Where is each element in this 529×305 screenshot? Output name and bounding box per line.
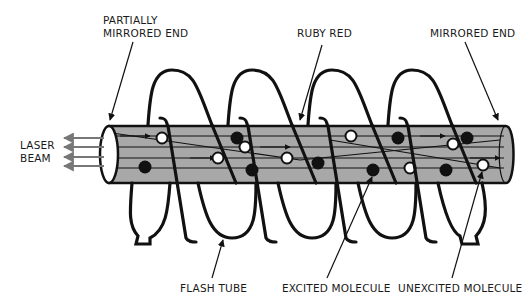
excited-molecule bbox=[367, 164, 380, 177]
unexcited-molecule bbox=[282, 153, 293, 164]
label-laser-beam: LASER BEAM bbox=[20, 139, 55, 165]
excited-molecule bbox=[440, 164, 453, 177]
unexcited-molecule bbox=[213, 153, 224, 164]
label-flash-tube: FLASH TUBE bbox=[180, 282, 247, 295]
label-partially-mirrored-end: PARTIALLY MIRRORED END bbox=[103, 14, 188, 40]
laser-beam-arrows bbox=[64, 138, 104, 166]
label-excited-molecule: EXCITED MOLECULE bbox=[282, 282, 390, 295]
label-line: MIRRORED END bbox=[103, 27, 188, 40]
excited-molecule bbox=[461, 132, 474, 145]
ruby-laser-diagram: PARTIALLY MIRRORED END RUBY RED MIRRORED… bbox=[0, 0, 529, 305]
label-line: LASER bbox=[20, 139, 55, 152]
unexcited-molecule bbox=[240, 142, 251, 153]
label-ruby-red: RUBY RED bbox=[297, 27, 352, 40]
excited-molecule bbox=[312, 157, 325, 170]
flash-tube-upper-loops bbox=[148, 70, 452, 125]
label-unexcited-molecule: UNEXCITED MOLECULE bbox=[398, 282, 522, 295]
label-line: PARTIALLY bbox=[103, 14, 188, 27]
unexcited-molecule bbox=[157, 133, 168, 144]
unexcited-molecule bbox=[346, 131, 357, 142]
label-mirrored-end: MIRRORED END bbox=[430, 27, 515, 40]
unexcited-molecule bbox=[478, 160, 489, 171]
excited-molecule bbox=[392, 132, 405, 145]
excited-molecule bbox=[139, 161, 152, 174]
diagram-graphic bbox=[0, 0, 529, 305]
label-line: BEAM bbox=[20, 152, 55, 165]
